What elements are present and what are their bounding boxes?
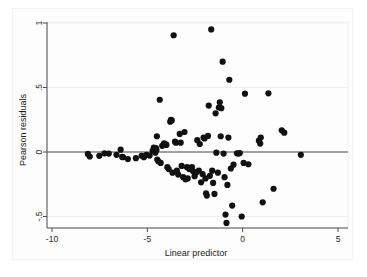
- data-point: [211, 191, 217, 197]
- data-point: [178, 140, 184, 146]
- data-point: [223, 220, 229, 226]
- x-tick-label: 0: [240, 234, 245, 244]
- data-point: [260, 199, 266, 205]
- data-point: [257, 141, 263, 147]
- data-point: [125, 156, 131, 162]
- data-point: [218, 133, 224, 139]
- data-point: [204, 193, 210, 199]
- data-point: [224, 182, 230, 188]
- data-point: [245, 161, 251, 167]
- y-tick-label: -.5: [34, 211, 44, 221]
- data-point: [220, 59, 226, 65]
- data-point: [226, 77, 232, 83]
- data-point: [153, 147, 159, 153]
- plot-frame: [47, 22, 348, 228]
- data-point: [221, 174, 227, 180]
- data-point: [113, 152, 119, 158]
- data-point: [215, 170, 221, 176]
- data-point: [197, 141, 203, 147]
- figure-container: -10-505 1.50-.5 Linear predictor Pearson…: [0, 0, 367, 277]
- x-tick-label: -10: [46, 234, 59, 244]
- data-point: [258, 134, 264, 140]
- data-point: [217, 99, 223, 105]
- x-tick-label: 5: [336, 234, 341, 244]
- data-point: [208, 26, 214, 32]
- data-point: [230, 162, 236, 168]
- data-point: [239, 213, 245, 219]
- data-point: [163, 142, 169, 148]
- data-point: [181, 129, 187, 135]
- data-point: [218, 105, 224, 111]
- y-tick-label: 1: [34, 20, 44, 25]
- y-axis-title: Pearson residuals: [18, 93, 28, 166]
- data-point: [213, 150, 219, 156]
- data-point: [265, 90, 271, 96]
- data-point: [206, 102, 212, 108]
- data-point: [209, 168, 215, 174]
- data-point: [225, 134, 231, 140]
- data-point: [270, 186, 276, 192]
- data-point: [157, 97, 163, 103]
- data-point: [229, 202, 235, 208]
- x-tick-labels: -10-505: [46, 234, 341, 244]
- data-point: [212, 110, 218, 116]
- data-point: [154, 133, 160, 139]
- x-axis-title: Linear predictor: [165, 248, 228, 258]
- data-point: [242, 91, 248, 97]
- y-axis-ticks: [43, 23, 47, 217]
- data-point: [298, 152, 304, 158]
- x-axis-ticks: [52, 228, 338, 232]
- y-tick-label: 0: [34, 149, 44, 154]
- data-point: [169, 117, 175, 123]
- data-point: [87, 153, 93, 159]
- data-point: [205, 133, 211, 139]
- data-point: [210, 180, 216, 186]
- data-point: [158, 160, 164, 166]
- data-point: [118, 147, 124, 153]
- y-tick-labels: 1.50-.5: [34, 20, 44, 221]
- data-point: [171, 32, 177, 38]
- scatter-plot: -10-505 1.50-.5 Linear predictor Pearson…: [0, 0, 367, 277]
- data-point: [179, 163, 185, 169]
- data-points: [85, 26, 304, 226]
- gridlines: [47, 23, 348, 217]
- data-point: [106, 150, 112, 156]
- data-point: [221, 150, 227, 156]
- x-tick-label: -5: [144, 234, 152, 244]
- data-point: [237, 150, 243, 156]
- data-point: [281, 130, 287, 136]
- data-point: [133, 155, 139, 161]
- data-point: [185, 175, 191, 181]
- scatter-plot-svg: -10-505 1.50-.5 Linear predictor Pearson…: [0, 0, 367, 277]
- axis-lines: [47, 22, 348, 228]
- y-tick-label: .5: [34, 84, 44, 91]
- data-point: [222, 211, 228, 217]
